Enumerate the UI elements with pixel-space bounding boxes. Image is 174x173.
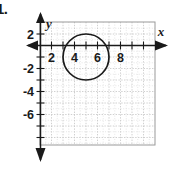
x-tick-label-6: 6 xyxy=(94,51,101,65)
x-axis-label: x xyxy=(157,24,165,39)
y-axis-label: y xyxy=(44,16,52,31)
y-tick-label-neg2: -2 xyxy=(23,62,34,76)
figure-root: 1. xyxy=(0,0,174,173)
arrow-up-icon xyxy=(36,12,45,23)
arrow-down-icon xyxy=(36,148,46,162)
y-tick-label-2: 2 xyxy=(27,28,34,42)
x-tick-label-4: 4 xyxy=(71,51,78,65)
arrow-left-icon xyxy=(26,41,38,51)
arrow-right-icon xyxy=(155,41,168,51)
y-tick-label-neg4: -4 xyxy=(23,85,34,99)
x-tick-label-8: 8 xyxy=(117,51,124,65)
coordinate-plane-graph: 2 4 6 8 2 -2 -4 -6 y x xyxy=(0,0,174,173)
y-tick-label-neg6: -6 xyxy=(23,108,34,122)
x-tick-label-2: 2 xyxy=(48,51,55,65)
